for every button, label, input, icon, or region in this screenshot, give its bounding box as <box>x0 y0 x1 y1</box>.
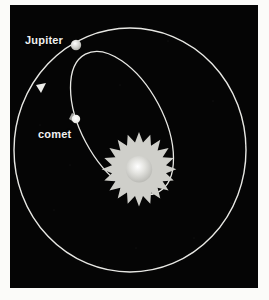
jupiter-label: Jupiter <box>25 34 63 46</box>
orbit-vector-canvas <box>10 5 258 288</box>
orbit-direction-arrow <box>36 83 46 93</box>
sun-disc <box>126 156 152 182</box>
frame-edge-bottom <box>0 288 269 300</box>
comet-label: comet <box>38 128 71 140</box>
sun-body <box>102 132 177 206</box>
jupiter-body <box>71 40 81 50</box>
frame-edge-left <box>0 0 10 300</box>
frame-edge-right <box>258 0 269 300</box>
frame-edge-top <box>0 0 269 5</box>
orbit-diagram-figure: Jupiter comet <box>0 0 269 300</box>
sky-background: Jupiter comet <box>10 5 258 288</box>
